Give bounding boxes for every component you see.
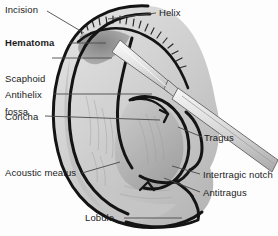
label-antitragus: Antitragus (203, 187, 247, 198)
label-tragus: Tragus (204, 132, 234, 143)
ear-anatomy-figure: Incision Hematoma Scaphoid fossa Antihel… (0, 0, 278, 236)
label-hematoma: Hematoma (5, 37, 54, 48)
label-incision: Incision (5, 4, 38, 15)
label-intertragic-notch: Intertragic notch (203, 169, 273, 180)
label-scaphoid-fossa-line1: Scaphoid (5, 73, 45, 84)
label-concha: Concha (5, 111, 38, 122)
leader-incision (47, 11, 84, 33)
label-lobule: Lobule (85, 212, 114, 223)
label-helix: Helix (159, 7, 181, 18)
label-acoustic-meatus: Acoustic meatus (5, 167, 76, 178)
label-antihelix: Antihelix (5, 89, 42, 100)
